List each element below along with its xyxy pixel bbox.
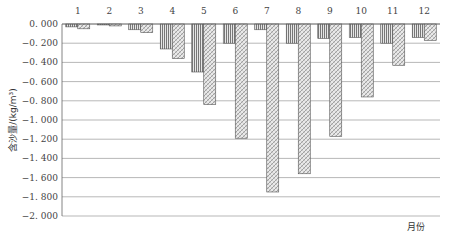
x-category-label: 12 xyxy=(419,6,430,16)
x-axis-title: 月份 xyxy=(407,221,425,232)
y-tick-label: −1. 600 xyxy=(22,173,58,183)
bar-series-1-month-7 xyxy=(255,24,267,30)
x-category-label: 3 xyxy=(138,6,144,16)
bar-series-1-month-10 xyxy=(349,24,361,37)
x-category-label: 4 xyxy=(169,6,175,16)
bar-series-1-month-9 xyxy=(318,24,330,38)
bar-series-2-month-7 xyxy=(267,24,279,192)
bar-series-2-month-9 xyxy=(330,24,342,136)
bar-series-2-month-11 xyxy=(393,24,405,65)
y-tick-label: 0. 000 xyxy=(29,19,58,29)
bar-series-2-month-1 xyxy=(78,24,90,29)
bar-series-1-month-3 xyxy=(129,24,141,30)
sediment-bar-chart: 0. 000−0. 200−0. 400−0. 600−0. 800−1. 00… xyxy=(0,0,451,237)
x-category-label: 9 xyxy=(327,6,333,16)
y-tick-label: −2. 000 xyxy=(22,211,58,221)
y-tick-label: −1. 000 xyxy=(22,115,58,125)
y-tick-label: −0. 400 xyxy=(22,57,58,67)
bar-series-1-month-12 xyxy=(412,24,424,37)
bar-series-2-month-6 xyxy=(235,24,247,138)
bar-series-2-month-10 xyxy=(361,24,373,97)
bar-series-1-month-4 xyxy=(160,24,172,49)
x-category-label: 6 xyxy=(232,6,238,16)
bar-series-2-month-4 xyxy=(172,24,184,59)
bar-series-1-month-1 xyxy=(66,24,78,27)
x-category-label: 10 xyxy=(356,6,368,16)
y-tick-label: −0. 600 xyxy=(22,77,58,87)
y-axis-title: 含沙量/(kg/m³) xyxy=(7,88,18,151)
bar-series-2-month-3 xyxy=(141,24,153,33)
bar-series-2-month-12 xyxy=(424,24,436,40)
bar-series-1-month-8 xyxy=(286,24,298,43)
bars xyxy=(66,24,437,192)
y-tick-label: −0. 200 xyxy=(22,38,58,48)
x-category-label: 11 xyxy=(387,6,398,16)
x-category-label: 8 xyxy=(295,6,301,16)
y-tick-label: −1. 400 xyxy=(22,153,58,163)
x-category-label: 7 xyxy=(264,6,270,16)
y-axis-ticks: 0. 000−0. 200−0. 400−0. 600−0. 800−1. 00… xyxy=(22,19,58,221)
bar-series-1-month-11 xyxy=(381,24,393,43)
y-tick-label: −0. 800 xyxy=(22,96,58,106)
x-category-label: 2 xyxy=(106,6,112,16)
bar-series-1-month-6 xyxy=(223,24,235,43)
bar-series-2-month-8 xyxy=(298,24,310,174)
x-axis-categories: 123456789101112 xyxy=(75,6,430,16)
y-tick-label: −1. 800 xyxy=(22,192,58,202)
y-tick-label: −1. 200 xyxy=(22,134,58,144)
gridlines xyxy=(62,24,440,216)
bar-series-2-month-5 xyxy=(204,24,216,105)
x-category-label: 5 xyxy=(201,6,207,16)
bar-series-1-month-5 xyxy=(192,24,204,72)
x-category-label: 1 xyxy=(75,6,81,16)
